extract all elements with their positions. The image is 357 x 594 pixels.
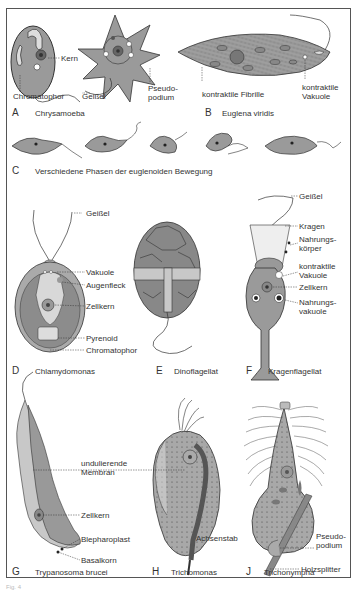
label-kontraktile-fibrille: kontraktile Fibrille [202, 90, 264, 99]
label-zellkern-g: Zellkern [81, 511, 109, 520]
panel-letter-j: J [246, 566, 251, 577]
label-zellkern-f: Zellkern [299, 283, 327, 292]
chlamydomonas-cell [15, 210, 85, 352]
label-chromatophor-a: Chromatophor [13, 92, 64, 101]
panel-letter-b: B [205, 107, 212, 118]
label-geissel-f: Geißel [299, 192, 323, 201]
label-kern: Kern [61, 54, 78, 63]
trichomonas-cell [153, 398, 220, 575]
panel-title-c: Verschiedene Phasen der euglenoiden Bewe… [35, 167, 212, 176]
panel-letter-g: G [12, 566, 20, 577]
label-nahrungskoerper: Nahrungs- körper [299, 235, 336, 253]
label-pseudopodium-j: Pseudo- podium [316, 532, 346, 550]
panel-title-a: Chrysamoeba [35, 109, 85, 118]
label-zellkern-d: Zellkern [86, 302, 114, 311]
panel-title-h: Trichomonas [171, 568, 217, 577]
label-nahrungsvakuole: Nahrungs- vakuole [299, 298, 336, 316]
trypanosoma-cell [17, 372, 81, 554]
panel-title-f: Kragenflagellat [268, 367, 321, 376]
panel-letter-f: F [246, 365, 252, 376]
panel-letter-d: D [12, 365, 19, 376]
label-chromatophor-d: Chromatophor [86, 346, 137, 355]
label-vakuole-d: Vakuole [86, 268, 114, 277]
label-blepharoplast: Blepharoplast [81, 535, 130, 544]
label-geissel-d: Geißel [86, 209, 110, 218]
euglena-cell [178, 15, 330, 82]
label-pseudopodium-a: Pseudo- podium [148, 84, 178, 102]
choanoflagellate-cell [246, 196, 293, 380]
label-kragen: Kragen [299, 222, 325, 231]
label-achsenstab: Achsenstab [196, 534, 238, 543]
dinoflagellate-cell [134, 222, 200, 354]
figure-note: Fig. 4 [6, 584, 21, 590]
label-undulierende-membran: undulierende Membran [81, 459, 127, 477]
label-augenfleck: Augenfleck [86, 281, 126, 290]
label-pyrenoid: Pyrenoid [86, 334, 118, 343]
panel-letter-c: C [12, 165, 19, 176]
panel-title-j: Trichonympha [264, 568, 314, 577]
panel-title-b: Euglena viridis [222, 109, 274, 118]
label-geissel-a: Geißel [82, 92, 106, 101]
euglenoid-phases [12, 122, 341, 158]
label-kontraktile-vakuole-f: kontraktile Vakuole [299, 262, 335, 280]
chrysamoeba-cell [11, 26, 80, 102]
panel-title-e: Dinoflagellat [174, 367, 218, 376]
panel-title-d: Chlamydomonas [35, 367, 95, 376]
panel-letter-a: A [12, 107, 19, 118]
label-basalkorn: Basalkorn [81, 556, 117, 565]
label-kontraktile-vakuole-b: kontraktile Vakuole [302, 83, 338, 101]
panel-letter-e: E [156, 365, 163, 376]
panel-title-g: Trypanosoma brucei [35, 568, 108, 577]
panel-letter-h: H [152, 566, 159, 577]
